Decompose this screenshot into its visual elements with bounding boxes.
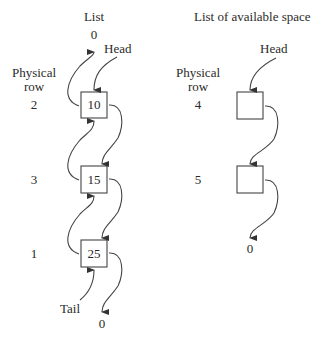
free-box-5	[237, 166, 263, 193]
list-head-label: Head	[104, 42, 131, 56]
available-bottom-null: 0	[244, 242, 256, 256]
available-physical-label: Physical	[174, 66, 222, 80]
free-box-4	[237, 92, 263, 119]
list-bottom-null: 0	[96, 317, 108, 331]
free-head-arrow	[250, 58, 276, 90]
next-arrow-25-null	[102, 253, 122, 312]
list-physical-label: Physical	[10, 66, 58, 80]
list-title: List	[78, 10, 110, 24]
available-head-label: Head	[260, 42, 287, 56]
available-title: List of available space	[194, 10, 311, 24]
node-value-25: 25	[81, 247, 107, 261]
next-arrow-15-25	[102, 179, 122, 238]
free-next-arrow-4-5	[250, 106, 278, 164]
node-value-15: 15	[81, 173, 107, 187]
head-arrow	[94, 57, 117, 90]
available-row-label: row	[174, 80, 222, 94]
row-number-4: 4	[190, 98, 206, 112]
next-arrow-10-15	[102, 105, 122, 164]
free-next-arrow-5-null	[250, 180, 278, 238]
list-top-null: 0	[88, 28, 100, 42]
row-number-2: 2	[26, 98, 42, 112]
list-tail-label: Tail	[60, 302, 80, 316]
row-number-5: 5	[190, 173, 206, 187]
node-value-10: 10	[81, 98, 107, 112]
row-number-1: 1	[26, 247, 42, 261]
tail-arrow	[80, 270, 94, 300]
row-number-3: 3	[26, 173, 42, 187]
list-row-label: row	[10, 80, 58, 94]
